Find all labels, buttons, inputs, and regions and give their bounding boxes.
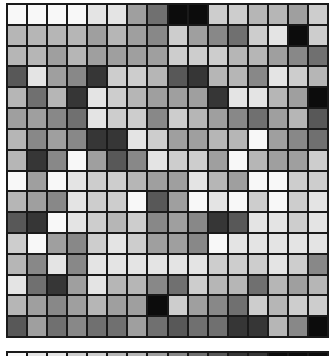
grid-cell xyxy=(128,234,146,253)
grid-cell xyxy=(229,88,247,107)
grid-cell xyxy=(189,47,207,66)
grid-cell xyxy=(269,109,287,128)
grid-cell xyxy=(189,151,207,170)
grid-cell xyxy=(289,296,307,315)
grid-cell xyxy=(309,296,327,315)
grid-cell xyxy=(189,172,207,191)
grid-cell xyxy=(229,317,247,336)
grid-cell xyxy=(28,88,46,107)
grid-cell xyxy=(289,5,307,24)
grid-cell xyxy=(309,130,327,149)
grid-cell xyxy=(189,26,207,45)
grid-cell xyxy=(28,255,46,274)
grid-cell xyxy=(309,317,327,336)
grid-cell xyxy=(48,88,66,107)
grid-cell xyxy=(128,276,146,295)
grid-cell xyxy=(189,88,207,107)
grid-cell xyxy=(88,317,106,336)
grid-cell xyxy=(8,47,26,66)
grid-cell xyxy=(68,296,86,315)
grid-cell xyxy=(249,317,267,336)
grid-cell xyxy=(229,26,247,45)
grid-cell xyxy=(289,172,307,191)
grid-cell xyxy=(28,192,46,211)
grid-cell xyxy=(68,151,86,170)
grid-cell xyxy=(309,47,327,66)
grid-cell xyxy=(148,172,166,191)
grid-cell xyxy=(48,151,66,170)
grid-cell xyxy=(169,192,187,211)
grid-cell xyxy=(229,5,247,24)
grid-cell xyxy=(8,88,26,107)
grid-cell xyxy=(128,255,146,274)
grid-cell xyxy=(8,26,26,45)
grid-cell xyxy=(189,296,207,315)
grid-cell xyxy=(88,109,106,128)
grid-cell xyxy=(148,109,166,128)
grid-cell xyxy=(68,317,86,336)
grid-cell xyxy=(309,151,327,170)
grid-cell xyxy=(28,67,46,86)
grid-cell xyxy=(88,213,106,232)
grid-cell xyxy=(148,192,166,211)
grid-cell xyxy=(28,317,46,336)
grid-cell xyxy=(128,47,146,66)
grid-cell xyxy=(108,151,126,170)
grid-cell xyxy=(148,276,166,295)
grid-cell xyxy=(289,276,307,295)
grid-cell xyxy=(209,26,227,45)
grid-cell xyxy=(269,276,287,295)
grid-cell xyxy=(189,130,207,149)
grid-cell xyxy=(148,213,166,232)
grid-cell xyxy=(148,130,166,149)
grid-cell xyxy=(68,5,86,24)
grid-cell xyxy=(169,26,187,45)
grid-cell xyxy=(128,5,146,24)
grid-cell xyxy=(128,109,146,128)
grid-cell xyxy=(269,234,287,253)
grid-cell xyxy=(309,213,327,232)
grid-cell xyxy=(28,109,46,128)
grid-cell xyxy=(8,213,26,232)
grid-cell xyxy=(209,172,227,191)
grid-cell xyxy=(148,88,166,107)
grid-cell xyxy=(309,5,327,24)
grid-cell xyxy=(8,255,26,274)
grid-cell xyxy=(108,172,126,191)
grid-cell xyxy=(269,130,287,149)
grid-cell xyxy=(229,213,247,232)
grid-cell xyxy=(209,234,227,253)
grid-cell xyxy=(88,276,106,295)
grid-cell xyxy=(88,296,106,315)
grid-cell xyxy=(148,151,166,170)
grid-cell xyxy=(229,296,247,315)
grid-cell xyxy=(68,47,86,66)
grid-cell xyxy=(88,234,106,253)
grid-cell xyxy=(148,296,166,315)
grid-cell xyxy=(289,130,307,149)
grid-cell xyxy=(48,5,66,24)
grid-cell xyxy=(28,213,46,232)
grid-cell xyxy=(209,213,227,232)
grid-cell xyxy=(289,151,307,170)
grid-cell xyxy=(169,130,187,149)
grid-cell xyxy=(289,192,307,211)
grid-cell xyxy=(108,296,126,315)
grid-cell xyxy=(169,109,187,128)
grid-cell xyxy=(249,151,267,170)
grid-cell xyxy=(309,172,327,191)
grid-cell xyxy=(8,151,26,170)
grid-cell xyxy=(269,255,287,274)
grid-cell xyxy=(148,255,166,274)
grid-cell xyxy=(88,47,106,66)
grid-cell xyxy=(128,172,146,191)
grid-cell xyxy=(48,213,66,232)
grid-cell xyxy=(309,255,327,274)
grid-cell xyxy=(128,213,146,232)
grid-cell xyxy=(309,67,327,86)
grid-cell xyxy=(209,296,227,315)
grid-cell xyxy=(48,317,66,336)
grid-cell xyxy=(289,88,307,107)
grid-cell xyxy=(128,151,146,170)
grid-cell xyxy=(229,67,247,86)
